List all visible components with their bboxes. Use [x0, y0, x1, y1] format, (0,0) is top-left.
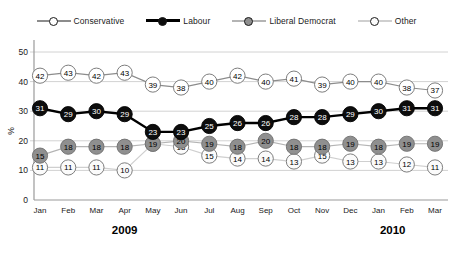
x-tick-0: Jan [27, 206, 53, 215]
data-point [286, 71, 301, 86]
year-label-2009: 2009 [95, 224, 155, 236]
data-point [371, 104, 386, 119]
data-point [371, 139, 386, 154]
x-tick-1: Feb [55, 206, 81, 215]
data-point [61, 160, 76, 175]
legend-marker-labour-icon [146, 15, 180, 27]
data-point [145, 124, 160, 139]
data-point [145, 77, 160, 92]
data-point [117, 65, 132, 80]
data-point [427, 83, 442, 98]
x-tick-7: Aug [225, 206, 251, 215]
y-tick-30: 30 [19, 106, 29, 116]
y-tick-40: 40 [19, 77, 29, 87]
plot-area: 01020304050 % 11111110191815141413151313… [0, 36, 453, 211]
data-point [117, 163, 132, 178]
data-point [427, 160, 442, 175]
data-point [258, 115, 273, 130]
series-conservative: 424342433938404240413940403837 [32, 65, 442, 98]
data-point [315, 77, 330, 92]
data-point [343, 136, 358, 151]
data-point [202, 136, 217, 151]
y-tick-0: 0 [23, 195, 28, 205]
data-point [315, 139, 330, 154]
data-point [117, 139, 132, 154]
legend-label-liberal-democrat: Liberal Democrat [269, 16, 335, 26]
y-tick-50: 50 [19, 47, 29, 57]
x-tick-2: Mar [83, 206, 109, 215]
x-tick-13: Feb [394, 206, 420, 215]
data-point [286, 110, 301, 125]
chart-legend: Conservative Labour Liberal Democrat Oth… [0, 10, 453, 32]
data-point [427, 101, 442, 116]
legend-label-labour: Labour [183, 16, 210, 26]
y-tick-20: 20 [19, 136, 29, 146]
data-point [32, 68, 47, 83]
data-point [32, 101, 47, 116]
x-tick-14: Mar [422, 206, 448, 215]
legend-item-labour: Labour [146, 15, 210, 27]
x-tick-5: Jun [168, 206, 194, 215]
x-axis-year-labels: 20092010 [0, 224, 453, 246]
data-point [61, 65, 76, 80]
data-point [371, 74, 386, 89]
data-point [286, 154, 301, 169]
x-tick-3: Apr [112, 206, 138, 215]
data-point [315, 110, 330, 125]
data-point [286, 139, 301, 154]
data-point [258, 74, 273, 89]
legend-marker-other-icon [358, 15, 392, 27]
data-point [32, 148, 47, 163]
data-point [258, 151, 273, 166]
data-point [202, 118, 217, 133]
data-point [117, 107, 132, 122]
y-axis-ticks: 01020304050 [19, 47, 29, 205]
x-tick-4: May [140, 206, 166, 215]
x-tick-12: Jan [366, 206, 392, 215]
year-label-2010: 2010 [363, 224, 423, 236]
data-point [230, 115, 245, 130]
data-point [258, 133, 273, 148]
legend-item-conservative: Conservative [37, 15, 125, 27]
x-axis-labels: JanFebMarAprMayJunJulAugSepOctNovDecJanF… [0, 206, 453, 224]
data-point [202, 74, 217, 89]
series-labour: 312930292323252626282829303131 [32, 101, 442, 140]
data-point [230, 68, 245, 83]
legend-marker-conservative-icon [37, 15, 71, 27]
data-point [399, 136, 414, 151]
data-point [173, 124, 188, 139]
legend-marker-liberal-democrat-icon [232, 15, 266, 27]
x-tick-11: Dec [337, 206, 363, 215]
data-point [89, 139, 104, 154]
data-point [173, 80, 188, 95]
legend-item-other: Other [358, 15, 417, 27]
data-point [61, 139, 76, 154]
data-point [89, 104, 104, 119]
x-tick-6: Jul [196, 206, 222, 215]
data-point [343, 154, 358, 169]
data-point [399, 80, 414, 95]
x-tick-8: Sep [253, 206, 279, 215]
data-point [89, 160, 104, 175]
legend-label-other: Other [395, 16, 417, 26]
data-point [343, 74, 358, 89]
legend-item-liberal-democrat: Liberal Democrat [232, 15, 335, 27]
y-tick-10: 10 [19, 165, 29, 175]
data-point [343, 107, 358, 122]
data-point [89, 68, 104, 83]
series-group: 1111111019181514141315131312111518181819… [32, 65, 442, 178]
legend-label-conservative: Conservative [74, 16, 125, 26]
data-point [61, 107, 76, 122]
poll-trend-chart: Conservative Labour Liberal Democrat Oth… [0, 0, 453, 269]
plot-svg: 01020304050 % 11111110191815141413151313… [0, 36, 453, 211]
data-point [399, 101, 414, 116]
x-tick-10: Nov [309, 206, 335, 215]
y-axis-title: % [6, 127, 16, 135]
data-point [399, 157, 414, 172]
data-point [371, 154, 386, 169]
x-tick-9: Oct [281, 206, 307, 215]
data-point [427, 136, 442, 151]
data-point [230, 139, 245, 154]
